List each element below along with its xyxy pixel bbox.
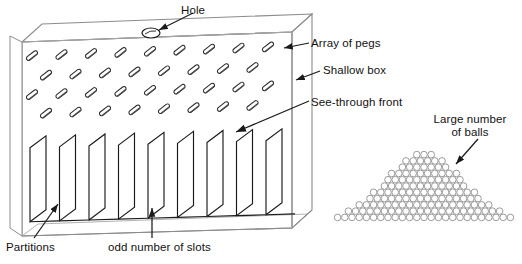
ball [381,208,388,215]
ball [406,189,413,196]
peg-body [144,85,157,96]
ball [417,183,424,190]
ball [475,208,482,215]
ball [413,214,420,221]
peg-body [232,81,245,92]
ball [403,158,410,165]
ball [424,158,431,165]
ball [428,164,435,171]
partition [60,135,89,221]
partition [148,132,177,218]
ball [421,176,428,183]
ball [439,208,446,215]
ball [431,195,438,202]
box-floor-back-edge [38,214,308,224]
ball [374,208,381,215]
peg [158,103,171,114]
peg-body [203,82,216,93]
partition-face [60,135,76,221]
ball [388,195,395,202]
box-floor-front-edge [22,228,292,236]
ball [467,208,474,215]
peg [55,49,68,60]
ball [446,208,453,215]
ball [424,208,431,215]
ball [421,189,428,196]
ball [417,170,424,177]
peg-body [232,42,245,53]
ball [464,202,471,209]
label-hole: Hole [181,4,205,17]
ball [363,202,370,209]
peg-body [69,106,82,117]
peg [158,65,171,76]
peg [232,81,245,92]
ball [446,183,453,190]
galton-board-figure: Hole Array of pegs Shallow box See-throu… [0,0,522,264]
peg-body [262,80,275,91]
peg-body [128,104,141,115]
ball [413,151,420,158]
peg-body [217,101,230,112]
partition-fins [30,129,295,222]
ball [442,176,449,183]
peg [40,69,53,80]
ball [410,170,417,177]
peg [85,48,98,59]
ball [496,208,503,215]
ball [446,170,453,177]
ball [392,189,399,196]
ball [388,208,395,215]
peg [217,101,230,112]
ball [334,214,341,221]
peg-body [26,50,39,61]
partition [207,131,236,217]
ball [395,183,402,190]
ball [399,189,406,196]
peg [187,64,200,75]
peg-body [246,62,259,73]
peg-body [114,47,127,58]
label-partitions: Partitions [6,241,55,254]
ball [403,183,410,190]
ball [381,195,388,202]
ball [475,195,482,202]
ball [449,189,456,196]
ball [428,202,435,209]
label-balls-line2: of balls [424,126,516,139]
peg-body [158,103,171,114]
ball [435,189,442,196]
peg-body [187,64,200,75]
ball [421,214,428,221]
ball [453,195,460,202]
peg [55,88,68,99]
ball [421,202,428,209]
ball [345,208,352,215]
ball [363,214,370,221]
ball [439,158,446,165]
peg [128,66,141,77]
peg [144,46,157,57]
ball [406,202,413,209]
ball [406,164,413,171]
ball [370,189,377,196]
ball [388,170,395,177]
peg [69,68,82,79]
ball [413,176,420,183]
ball [485,214,492,221]
ball [464,214,471,221]
ball [352,208,359,215]
ball [377,202,384,209]
ball [449,214,456,221]
ball [446,195,453,202]
peg-body [173,84,186,95]
ball [500,214,507,221]
ball [399,202,406,209]
ball [439,170,446,177]
ball [385,189,392,196]
partition [89,134,118,220]
ball [442,202,449,209]
ball [406,214,413,221]
ball [435,164,442,171]
ball [349,214,356,221]
